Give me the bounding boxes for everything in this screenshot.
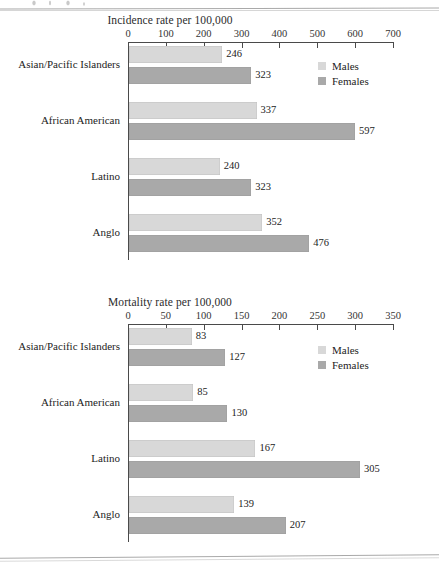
axis-tick-label: 0: [125, 28, 130, 39]
axis-tick-label: 150: [234, 310, 250, 321]
axis-tick: [279, 324, 280, 330]
bar-females: [129, 349, 225, 366]
axis-end-tick: [393, 324, 394, 330]
axis-tick: [279, 42, 280, 48]
axis-tick-label: 0: [125, 310, 130, 321]
axis-tick: [242, 324, 243, 330]
legend-incidence: Males Females: [318, 58, 369, 88]
bar-males: [129, 158, 220, 175]
bar-females: [129, 235, 309, 252]
legend-item-females: Females: [318, 357, 369, 372]
bar-males: [129, 102, 257, 119]
category-label: Latino: [0, 452, 120, 464]
axis-tick: [355, 42, 356, 48]
legend-item-males: Males: [318, 342, 369, 357]
axis-tick-label: 200: [196, 28, 212, 39]
bar-value-females: 127: [229, 351, 245, 362]
category-label: African American: [0, 396, 120, 408]
bar-value-females: 476: [313, 237, 329, 248]
legend-label-males: Males: [332, 344, 359, 356]
axis-tick-label: 300: [234, 28, 250, 39]
bar-value-females: 207: [290, 519, 306, 530]
bar-value-males: 139: [238, 498, 254, 509]
legend-label-females: Females: [332, 359, 369, 371]
bar-value-females: 597: [359, 125, 375, 136]
legend-swatch-females-icon: [318, 77, 326, 85]
legend-swatch-males-icon: [318, 346, 326, 354]
bar-value-males: 246: [226, 48, 242, 59]
bar-females: [129, 461, 360, 478]
chart-title-mortality: Mortality rate per 100,000: [0, 296, 340, 308]
legend-label-females: Females: [332, 75, 369, 87]
axis-tick-label: 700: [385, 28, 401, 39]
bar-value-males: 240: [224, 160, 240, 171]
x-axis-mortality: 050100150200250300350: [128, 324, 393, 325]
axis-tick-label: 500: [309, 28, 325, 39]
legend-label-males: Males: [332, 60, 359, 72]
bar-females: [129, 179, 251, 196]
axis-tick: [317, 324, 318, 330]
axis-tick-label: 200: [272, 310, 288, 321]
bar-value-males: 352: [266, 216, 282, 227]
bar-males: [129, 214, 262, 231]
chart-mortality: Mortality rate per 100,000 0501001502002…: [0, 296, 439, 546]
bar-value-males: 167: [259, 442, 275, 453]
category-label: Latino: [0, 170, 120, 182]
page-top-scan-rule-2: [0, 10, 439, 11]
axis-tick-label: 300: [347, 310, 363, 321]
bar-value-males: 337: [261, 104, 277, 115]
bar-value-males: 83: [196, 330, 207, 341]
bar-value-females: 305: [364, 463, 380, 474]
bar-males: [129, 440, 255, 457]
legend-item-females: Females: [318, 73, 369, 88]
legend-item-males: Males: [318, 58, 369, 73]
axis-tick: [355, 324, 356, 330]
bar-males: [129, 328, 192, 345]
category-label: Asian/Pacific Islanders: [0, 340, 120, 352]
legend-swatch-females-icon: [318, 361, 326, 369]
chart-title-incidence: Incidence rate per 100,000: [0, 14, 340, 26]
axis-tick: [317, 42, 318, 48]
bar-females: [129, 517, 286, 534]
axis-tick-label: 100: [158, 28, 174, 39]
axis-tick-label: 100: [196, 310, 212, 321]
category-label: Anglo: [0, 226, 120, 238]
category-label: African American: [0, 114, 120, 126]
bar-value-females: 323: [255, 181, 271, 192]
legend-mortality: Males Females: [318, 342, 369, 372]
bar-value-females: 130: [231, 407, 247, 418]
bar-females: [129, 405, 227, 422]
bar-females: [129, 123, 355, 140]
axis-tick-label: 350: [385, 310, 401, 321]
bar-females: [129, 67, 251, 84]
category-label: Asian/Pacific Islanders: [0, 58, 120, 70]
legend-swatch-males-icon: [318, 62, 326, 70]
bar-males: [129, 496, 234, 513]
bar-value-males: 85: [197, 386, 208, 397]
axis-tick-label: 250: [309, 310, 325, 321]
axis-tick-label: 600: [347, 28, 363, 39]
chart-incidence: Incidence rate per 100,000 0100200300400…: [0, 14, 439, 264]
axis-end-tick: [393, 42, 394, 48]
x-axis-incidence: 0100200300400500600700: [128, 42, 393, 43]
bar-value-females: 323: [255, 69, 271, 80]
page-top-text-remnant: [28, 0, 92, 7]
bar-males: [129, 46, 222, 63]
bar-males: [129, 384, 193, 401]
axis-tick-label: 50: [161, 310, 172, 321]
axis-tick-label: 400: [272, 28, 288, 39]
category-label: Anglo: [0, 508, 120, 520]
